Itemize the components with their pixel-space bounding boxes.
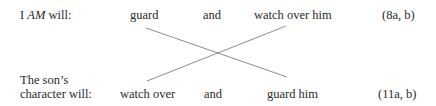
guard-to-guard-him-line [146, 28, 287, 77]
watch-over-him-to-watch-over-line [147, 26, 286, 81]
chiasm-cross-lines [0, 0, 436, 106]
